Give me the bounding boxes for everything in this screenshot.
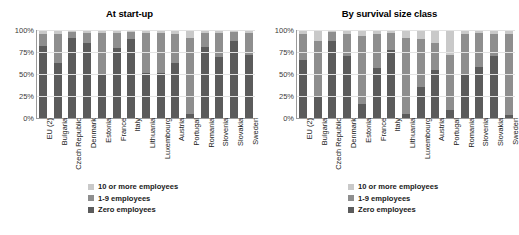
chart-title-left: At start-up: [0, 8, 259, 19]
bar-segment-right-1-s1: [314, 41, 322, 96]
bar-segment-left-5-s0: [113, 48, 121, 118]
gridline-right-3: [297, 52, 515, 53]
legend-left: 10 or more employees1-9 employeesZero em…: [88, 182, 178, 214]
bar-segment-right-2-s1: [328, 32, 336, 42]
bar-segment-left-1-s0: [54, 63, 62, 118]
bar-segment-right-4-s1: [358, 36, 366, 104]
bar-segment-right-7-s1: [402, 38, 410, 115]
gridline-left-3: [37, 52, 255, 53]
bar-segment-right-8-s1: [417, 39, 425, 87]
x-tick-cell-left-14: Sweden: [244, 118, 252, 178]
x-tick-cell-left-3: Denmark: [82, 118, 90, 178]
bar-segment-right-1-s2: [314, 30, 322, 41]
bar-segment-left-12-s1: [215, 33, 223, 58]
y-tick-right-1: 25%: [279, 92, 294, 101]
legend-swatch-icon-right-1: [348, 195, 354, 201]
x-tick-label-right-14: Sweden: [511, 118, 519, 145]
plot-canvas-left: [36, 30, 255, 119]
bar-segment-right-5-s0: [373, 68, 381, 118]
x-tick-cell-right-3: Denmark: [342, 118, 350, 178]
y-tick-right-0: 0%: [283, 114, 294, 123]
y-tick-right-3: 75%: [279, 48, 294, 57]
legend-swatch-icon-right-2: [348, 207, 354, 213]
bar-segment-left-10-s1: [186, 38, 194, 115]
bar-segment-right-13-s0: [490, 56, 498, 118]
chart-panel-by-survival-size-class: By survival size class 0%25%50%75%100% E…: [260, 0, 519, 235]
bar-segment-right-12-s1: [475, 33, 483, 67]
x-tick-label-left-14: Sweden: [251, 118, 260, 145]
legend-swatch-icon-right-0: [348, 184, 354, 190]
legend-label-left-1: 1-9 employees: [98, 194, 150, 203]
y-tick-right-2: 50%: [279, 70, 294, 79]
legend-label-right-2: Zero employees: [358, 205, 416, 214]
legend-swatch-icon-left-2: [88, 207, 94, 213]
x-tick-cell-left-1: Bulgaria: [53, 118, 61, 178]
chart-title-right: By survival size class: [260, 8, 519, 19]
bar-segment-left-4-s1: [98, 33, 106, 74]
bar-segment-left-1-s1: [54, 34, 62, 63]
x-tick-cell-right-9: Austria: [430, 118, 438, 178]
bar-segment-left-0-s0: [39, 46, 47, 118]
y-axis-labels-right: 0%25%50%75%100%: [264, 26, 294, 118]
x-tick-cell-right-7: Lithuania: [401, 118, 409, 178]
y-tick-left-0: 0%: [23, 114, 34, 123]
legend-label-left-0: 10 or more employees: [98, 182, 178, 191]
plot-area-right: 0%25%50%75%100%: [260, 26, 519, 124]
bar-segment-right-3-s0: [343, 56, 351, 118]
bar-segment-left-10-s2: [186, 30, 194, 38]
bar-segment-left-6-s1: [127, 32, 135, 39]
x-tick-cell-left-12: Slovenia: [214, 118, 222, 178]
bar-segment-right-10-s1: [446, 55, 454, 110]
bar-segment-left-9-s0: [171, 63, 179, 118]
legend-swatch-icon-left-1: [88, 195, 94, 201]
x-axis-labels-left: EU (2)BulgariaCzech RepublicDenmarkEston…: [36, 118, 254, 178]
x-tick-cell-right-12: Slovenia: [474, 118, 482, 178]
bar-segment-left-2-s0: [68, 38, 76, 118]
y-tick-right-4: 100%: [275, 26, 294, 35]
stacked-bar-chart-figure: At start-up 0%25%50%75%100% EU (2)Bulgar…: [0, 0, 519, 235]
bar-segment-left-14-s0: [245, 55, 253, 118]
legend-item-left-0[interactable]: 10 or more employees: [88, 182, 178, 191]
bar-segment-left-3-s0: [83, 43, 91, 118]
x-tick-cell-left-9: Austria: [170, 118, 178, 178]
bar-segment-right-6-s1: [387, 33, 395, 51]
legend-item-right-0[interactable]: 10 or more employees: [348, 182, 438, 191]
x-tick-cell-left-4: Estonia: [97, 118, 105, 178]
gridline-right-1: [297, 96, 515, 97]
bar-segment-left-0-s1: [39, 34, 47, 46]
legend-item-right-1[interactable]: 1-9 employees: [348, 194, 438, 203]
legend-item-left-2[interactable]: Zero employees: [88, 205, 178, 214]
gridline-right-2: [297, 74, 515, 75]
y-axis-labels-left: 0%25%50%75%100%: [4, 26, 34, 118]
x-tick-cell-right-0: EU (2): [298, 118, 306, 178]
x-tick-cell-right-6: Italy: [386, 118, 394, 178]
plot-canvas-right: [296, 30, 515, 119]
x-tick-cell-right-8: Luxembourg: [416, 118, 424, 178]
bar-segment-left-11-s0: [201, 47, 209, 118]
x-axis-labels-right: EU (2)BulgariaCzech RepublicDenmarkEston…: [296, 118, 514, 178]
bar-segment-right-10-s2: [446, 30, 454, 55]
x-tick-cell-left-5: France: [112, 118, 120, 178]
bar-segment-right-0-s0: [299, 60, 307, 118]
y-tick-left-3: 75%: [19, 48, 34, 57]
x-tick-cell-left-10: Portugal: [185, 118, 193, 178]
x-tick-cell-right-5: France: [372, 118, 380, 178]
x-tick-cell-left-13: Slovakia: [229, 118, 237, 178]
y-tick-left-1: 25%: [19, 92, 34, 101]
x-tick-cell-right-10: Portugal: [445, 118, 453, 178]
x-tick-cell-left-7: Lithuania: [141, 118, 149, 178]
x-tick-cell-right-13: Slovakia: [489, 118, 497, 178]
gridline-left-2: [37, 74, 255, 75]
legend-item-right-2[interactable]: Zero employees: [348, 205, 438, 214]
bar-segment-right-6-s0: [387, 50, 395, 118]
bar-segment-left-5-s1: [113, 33, 121, 48]
bar-segment-right-9-s1: [431, 43, 439, 69]
x-tick-cell-left-6: Italy: [126, 118, 134, 178]
x-tick-cell-right-4: Estonia: [357, 118, 365, 178]
bar-segment-left-11-s1: [201, 33, 209, 47]
plot-area-left: 0%25%50%75%100%: [0, 26, 259, 124]
bar-segment-right-0-s1: [299, 34, 307, 60]
gridline-left-4: [37, 30, 255, 31]
legend-item-left-1[interactable]: 1-9 employees: [88, 194, 178, 203]
x-tick-cell-left-8: Luxembourg: [156, 118, 164, 178]
